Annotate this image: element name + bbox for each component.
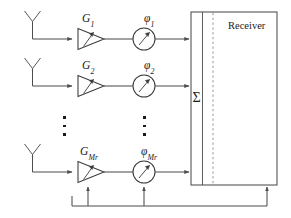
diagram-vector-layer: [0, 0, 291, 218]
phase-label-1: φ1: [144, 13, 154, 27]
phase-shifter-1: [133, 28, 155, 50]
antenna-1: [25, 11, 41, 39]
ellipsis-gain-column: [63, 116, 66, 136]
feedback-control-bus: [72, 187, 267, 206]
summation-symbol: Σ: [193, 91, 201, 105]
ellipsis-dot: [143, 125, 146, 128]
antenna-mr: [25, 144, 41, 172]
gain-label-2: G2: [82, 60, 94, 74]
gain-amplifier-1: [78, 29, 104, 50]
ellipsis-dot: [63, 125, 66, 128]
ellipsis-dot: [143, 133, 146, 136]
ellipsis-dot: [63, 116, 66, 119]
ellipsis-dot: [143, 116, 146, 119]
phase-label-mr: φMr: [141, 146, 157, 160]
phase-shifter-2: [133, 75, 155, 97]
receiver-label: Receiver: [228, 21, 265, 32]
phase-label-2: φ2: [144, 60, 154, 74]
receiver-block: [191, 12, 277, 185]
phase-shifter-mr: [133, 161, 155, 183]
gain-amplifier-2: [78, 76, 104, 97]
gain-label-mr: GMr: [80, 146, 98, 160]
gain-amplifier-mr: [78, 162, 104, 183]
diagram-canvas: G1 φ1 G2 φ2 GMr φMr Σ Receiver: [0, 0, 291, 218]
gain-label-1: G1: [82, 13, 94, 27]
ellipsis-dot: [63, 133, 66, 136]
antenna-2: [25, 58, 41, 86]
ellipsis-phase-column: [143, 116, 146, 136]
